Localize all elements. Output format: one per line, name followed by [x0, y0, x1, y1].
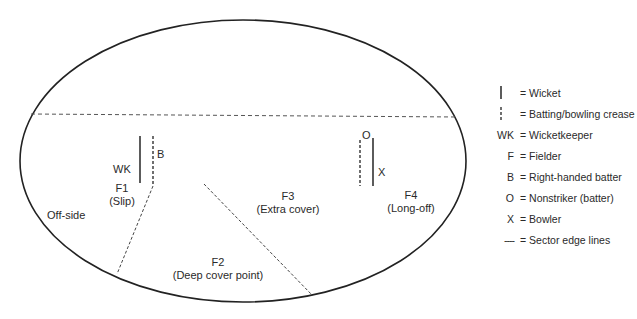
legend-label: = Sector edge lines: [520, 233, 610, 247]
legend-symbol: ----: [478, 233, 514, 247]
fielder-f1-id: F1: [105, 182, 139, 195]
fielder-f4: F4 (Long-off): [386, 189, 436, 215]
nonstriker-label: O: [362, 129, 371, 142]
legend-symbol: X: [478, 212, 514, 226]
fielder-f3-id: F3: [256, 190, 320, 203]
legend-label: = Bowler: [520, 212, 561, 226]
batter-label: B: [157, 148, 164, 161]
fielder-f3-position: (Extra cover): [256, 203, 320, 216]
bowler-label: X: [378, 166, 385, 179]
legend-label: = Batting/bowling crease: [520, 107, 635, 121]
fielder-f2-id: F2: [168, 256, 268, 269]
fielder-f2-position: (Deep cover point): [168, 269, 268, 282]
fielder-f4-id: F4: [386, 189, 436, 202]
legend-label: = Wicketkeeper: [520, 128, 593, 142]
fielder-f1: F1 (Slip): [105, 182, 139, 208]
legend-label: = Right-handed batter: [520, 170, 622, 184]
wicketkeeper-label: WK: [113, 163, 131, 176]
fielder-f3: F3 (Extra cover): [256, 190, 320, 216]
sector-edge-line-horizontal: [31, 114, 458, 117]
fielder-f2: F2 (Deep cover point): [168, 256, 268, 282]
legend-symbol: WK: [478, 128, 514, 142]
legend-label: = Wicket: [520, 86, 561, 100]
off-side-label: Off-side: [47, 209, 85, 222]
legend-label: = Nonstriker (batter): [520, 191, 614, 205]
fielder-f4-position: (Long-off): [386, 202, 436, 215]
legend-label: = Fielder: [520, 149, 561, 163]
legend-symbol: O: [478, 191, 514, 205]
legend-symbol: B: [478, 170, 514, 184]
fielder-f1-position: (Slip): [105, 195, 139, 208]
legend-symbol: F: [478, 149, 514, 163]
